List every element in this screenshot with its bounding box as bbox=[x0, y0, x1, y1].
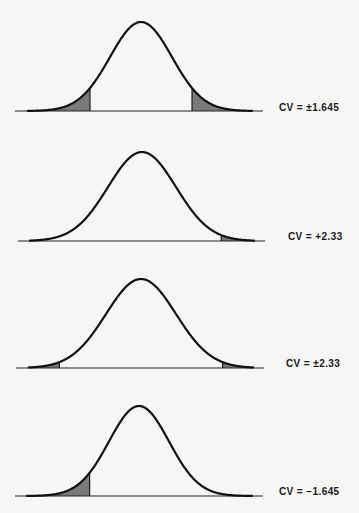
distribution-panel-left-tailed-1645 bbox=[15, 406, 263, 496]
normal-curve bbox=[28, 22, 252, 111]
distribution-panel-right-tailed-233 bbox=[18, 152, 265, 241]
normal-distribution-figure bbox=[0, 0, 359, 513]
critical-value-label-panel-2: CV = +2.33 bbox=[288, 231, 343, 242]
normal-curve bbox=[29, 279, 253, 367]
critical-value-label-panel-3: CV = ±2.33 bbox=[286, 358, 340, 369]
critical-value-label-panel-4: CV = −1.645 bbox=[279, 486, 340, 497]
distribution-panel-two-tailed-1645 bbox=[15, 22, 263, 111]
normal-curve bbox=[30, 152, 254, 241]
critical-value-label-panel-1: CV = ±1.645 bbox=[279, 102, 339, 113]
distribution-panel-two-tailed-233 bbox=[16, 279, 264, 368]
normal-curve bbox=[27, 406, 252, 496]
